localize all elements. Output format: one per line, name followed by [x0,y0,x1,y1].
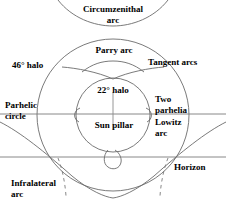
label-horizon: Horizon [174,162,206,173]
lower-tangent-arc-path [104,150,121,169]
label-parry-arc: Parry arc [84,45,144,56]
label-two-parhelia-line1: Two [155,94,171,104]
label-circumzenithal-arc-line2: arc [107,15,119,25]
label-lowitz-arc-line1: Lowitz [155,117,182,127]
label-sun-pillar-text: Sun pillar [95,120,133,130]
label-tangent-arcs: Tangent arcs [148,57,197,68]
label-circumzenithal-arc: Circumzenithal arc [66,4,160,25]
parhelion-right-path [146,108,151,122]
label-sun-pillar: Sun pillar [83,120,145,131]
label-two-parhelia: Two parhelia [155,94,187,115]
tangent-arc-left-path [62,67,113,79]
parry-arc-path [82,61,144,72]
label-halo-22: 22° halo [83,85,143,96]
label-infralateral-arc: Infralateral arc [11,178,56,199]
lowitz-arc-left-path [58,158,66,196]
label-halo-46: 46° halo [12,60,43,71]
label-circumzenithal-arc-line1: Circumzenithal [83,4,143,14]
halo-diagram: Circumzenithal arc Parry arc Tangent arc… [0,0,226,208]
label-horizon-text: Horizon [174,162,206,172]
label-parhelic-circle-line1: Parhelic [5,100,37,110]
label-halo-22-text: 22° halo [97,85,128,95]
label-lowitz-arc-line2: arc [155,128,167,138]
label-halo-46-text: 46° halo [12,60,43,70]
tangent-arc-right-path [113,67,164,79]
label-infralateral-arc-line1: Infralateral [11,178,56,188]
label-tangent-arcs-text: Tangent arcs [148,57,197,67]
parhelion-left-path [75,108,80,122]
label-lowitz-arc: Lowitz arc [155,117,182,138]
label-parhelic-circle: Parhelic circle [5,100,37,121]
label-parry-arc-text: Parry arc [95,45,132,55]
lowitz-arc-right-path [160,158,168,196]
label-parhelic-circle-line2: circle [5,111,26,121]
label-two-parhelia-line2: parhelia [155,105,187,115]
label-infralateral-arc-line2: arc [11,189,23,199]
